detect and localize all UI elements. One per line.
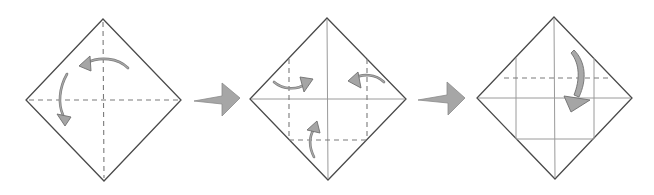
step-1-diagram	[26, 19, 181, 181]
right-arrow-icon	[194, 83, 240, 116]
origami-diagram: Fold in half both ways and unfold Fold l…	[0, 0, 654, 195]
right-arrow-icon	[418, 82, 465, 115]
step-2-diagram	[250, 18, 406, 180]
step-3-diagram	[477, 17, 632, 179]
